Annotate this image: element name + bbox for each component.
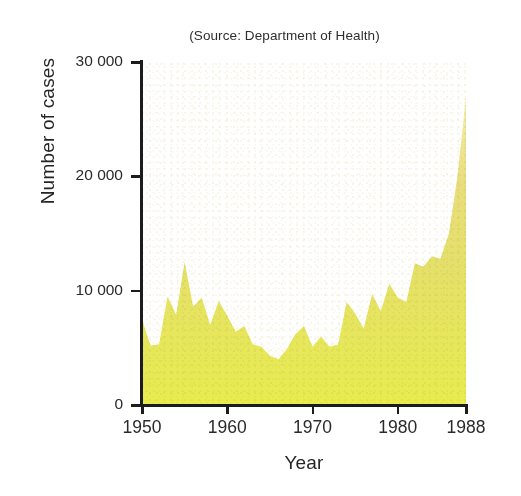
x-tick-mark [397,405,400,414]
y-tick-mark [131,404,141,407]
y-tick-mark [131,290,141,293]
y-axis-line [140,60,143,407]
x-tick-mark [141,405,144,414]
y-tick-label: 20 000 [5,166,123,184]
y-tick-label: 30 000 [5,52,123,70]
chart-figure: (Source: Department of Health) Number of… [0,0,521,496]
y-tick-label: 10 000 [5,281,123,299]
chart-source-note: (Source: Department of Health) [0,28,521,43]
x-tick-mark [312,405,315,414]
y-tick-mark [131,175,141,178]
x-tick-label: 1970 [278,417,348,438]
x-tick-label: 1988 [431,417,501,438]
x-axis-line [140,404,468,407]
area-series [142,62,466,405]
y-tick-label: 0 [5,395,123,413]
x-tick-mark [465,405,468,414]
x-axis-title: Year [142,452,466,474]
x-tick-label: 1960 [192,417,262,438]
y-tick-mark [131,61,141,64]
area-path [142,96,466,405]
x-tick-mark [226,405,229,414]
x-tick-label: 1980 [363,417,433,438]
x-tick-label: 1950 [107,417,177,438]
